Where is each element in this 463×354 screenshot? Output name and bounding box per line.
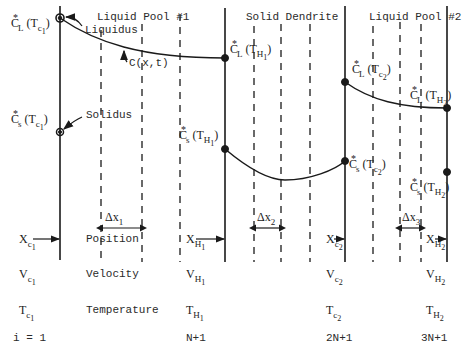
point-cl-tc2	[342, 79, 349, 86]
point-cs-th1	[222, 146, 229, 153]
index-label-4: 3N+1	[421, 333, 447, 344]
row-label-temperature: Temperature	[86, 305, 159, 316]
position-xh1: XH1	[186, 233, 205, 254]
position-xh2: XH2	[426, 233, 445, 254]
velocity-vc1: Vc1	[19, 268, 36, 289]
velocity-vh1: VH1	[186, 268, 205, 289]
row-label-position: Position	[86, 234, 139, 245]
solidus-arrow	[64, 117, 82, 129]
point-cl-th1	[222, 55, 229, 62]
cxt-arrow	[124, 51, 127, 62]
point-cs-tc2	[342, 158, 349, 165]
index-label-2: N+1	[186, 333, 206, 344]
region-label-liquid-pool-1: Liquid Pool #1	[97, 12, 189, 23]
temperature-th1: TH1	[186, 304, 204, 325]
temperature-tc1: Tc1	[19, 304, 34, 325]
liquidus-label: Liquidus	[85, 25, 138, 36]
concentration-label: C(x,t)	[129, 58, 169, 69]
label-cs-tc1: C*s (Tc1)	[11, 108, 48, 134]
label-cs-tc2: C*s (Tc2)	[349, 153, 386, 179]
label-cl-tc2: C*L (Tc2)	[352, 58, 391, 84]
index-label-3: 2N+1	[326, 333, 352, 344]
position-xc1: Xc1	[19, 233, 36, 254]
index-label-1: i = 1	[13, 333, 46, 344]
velocity-vc2: Vc2	[326, 268, 343, 289]
label-dx2: Δx2	[257, 211, 275, 228]
label-dx1: Δx1	[105, 211, 123, 228]
position-xc2: Xc2	[326, 233, 343, 254]
region-label-solid-dendrite: Solid Dendrite	[246, 12, 338, 23]
label-cl-th2: C*L (TH2)	[410, 84, 451, 110]
velocity-vh2: VH2	[426, 268, 445, 289]
label-cs-th2: C*s (TH2)	[410, 176, 449, 202]
temperature-tc2: Tc2	[326, 304, 341, 325]
label-cl-tc1: C*L (Tc1)	[11, 12, 50, 38]
temperature-th2: TH2	[426, 304, 444, 325]
label-cl-th1: C*L (TH1)	[230, 38, 271, 64]
curve-dendrite	[225, 149, 345, 180]
liquidus-arrow	[66, 17, 82, 26]
solidus-label: Solidus	[86, 110, 132, 121]
row-label-velocity: Velocity	[86, 269, 139, 280]
label-dx3: Δx3	[402, 211, 420, 228]
label-cs-th1: C*s (TH1)	[179, 124, 218, 150]
region-label-liquid-pool-2: Liquid Pool #2	[369, 12, 461, 23]
point-cs-th2	[444, 169, 451, 176]
